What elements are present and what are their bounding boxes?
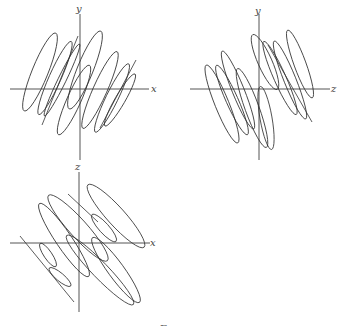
panel-xy: x y [10,3,157,160]
panel-zy: z y [190,5,337,160]
trajectory-curve [20,179,151,310]
z-axis-label: z [330,83,337,94]
y-axis-label: y [254,5,261,16]
y-axis-label: y [75,3,82,14]
z-axis-label: z [74,161,81,172]
x-axis-label: x [150,237,156,248]
trajectory-curve [17,28,139,138]
figure-canvas: x y z y [0,0,339,326]
figure-caption-cut-off: F [160,318,180,326]
x-axis-label: x [151,83,157,94]
panel-xz: x z [10,161,156,312]
